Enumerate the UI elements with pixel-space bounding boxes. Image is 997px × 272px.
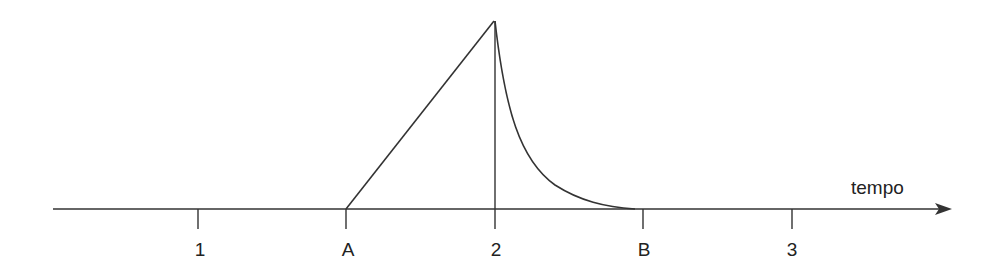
tick-label-A: A: [342, 240, 355, 259]
rising-edge: [346, 21, 494, 209]
decay-curve: [495, 21, 635, 209]
timeline-diagram: tempo 1 A 2 B 3: [0, 0, 997, 272]
axis-label: tempo: [851, 178, 904, 197]
tick-label-2: 2: [491, 240, 502, 259]
diagram-graphics: [0, 0, 997, 272]
tick-label-3: 3: [787, 240, 798, 259]
tick-label-1: 1: [195, 240, 206, 259]
tick-label-B: B: [638, 240, 651, 259]
